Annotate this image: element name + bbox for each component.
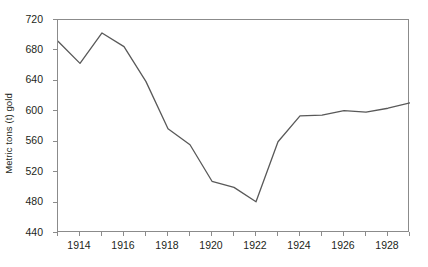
x-tick-mark [365, 232, 366, 236]
x-tick-mark [255, 232, 256, 236]
x-tick-mark [343, 232, 344, 236]
x-tick-mark [79, 232, 80, 236]
x-tick-mark [57, 232, 58, 236]
x-tick-label: 1924 [279, 239, 319, 251]
x-tick-mark [321, 232, 322, 236]
x-tick-mark [409, 232, 410, 236]
x-axis-ticks: 19141916191819201922192419261928 [0, 0, 428, 267]
x-tick-label: 1920 [191, 239, 231, 251]
x-tick-mark [189, 232, 190, 236]
gold-production-line-chart: Metric tons (t) gold 4404805205606006406… [0, 0, 428, 267]
x-tick-mark [277, 232, 278, 236]
x-tick-label: 1922 [235, 239, 275, 251]
x-tick-mark [387, 232, 388, 236]
x-tick-mark [299, 232, 300, 236]
x-tick-label: 1914 [59, 239, 99, 251]
x-tick-label: 1918 [147, 239, 187, 251]
x-tick-mark [167, 232, 168, 236]
x-tick-mark [233, 232, 234, 236]
x-tick-mark [123, 232, 124, 236]
x-tick-mark [101, 232, 102, 236]
x-tick-label: 1928 [367, 239, 407, 251]
x-tick-label: 1916 [103, 239, 143, 251]
x-tick-label: 1926 [323, 239, 363, 251]
x-tick-mark [145, 232, 146, 236]
x-tick-mark [211, 232, 212, 236]
